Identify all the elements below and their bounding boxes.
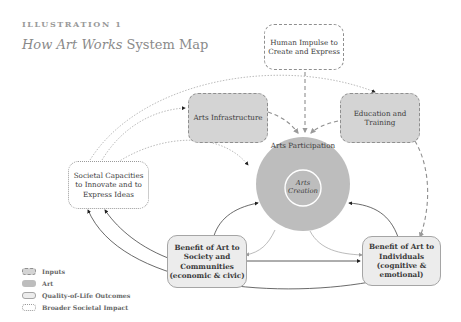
node-education-training: Education and Training	[340, 93, 420, 143]
node-societal-capacities: Societal Capacities to Innovate and to E…	[68, 161, 149, 209]
arts-creation-label: Arts Creation	[285, 179, 321, 196]
legend: Inputs Art Quality-of-Life Outcomes Broa…	[22, 266, 130, 314]
legend-item-art: Art	[22, 278, 130, 288]
legend-item-inputs: Inputs	[22, 266, 130, 276]
legend-swatch-broad	[22, 304, 36, 311]
node-human-impulse: Human Impulse to Create and Express	[264, 24, 344, 70]
legend-item-broad: Broader Societal Impact	[22, 302, 130, 312]
legend-swatch-quality	[22, 292, 36, 299]
legend-item-quality: Quality-of-Life Outcomes	[22, 290, 130, 300]
node-arts-infrastructure: Arts Infrastructure	[188, 93, 268, 143]
node-benefit-society: Benefit of Art to Society and Communitie…	[167, 235, 247, 288]
legend-swatch-art	[22, 280, 36, 287]
node-benefit-individuals: Benefit of Art to Individuals (cognitive…	[362, 236, 441, 286]
arts-participation-label: Arts Participation	[263, 141, 343, 150]
legend-swatch-inputs	[22, 268, 36, 275]
